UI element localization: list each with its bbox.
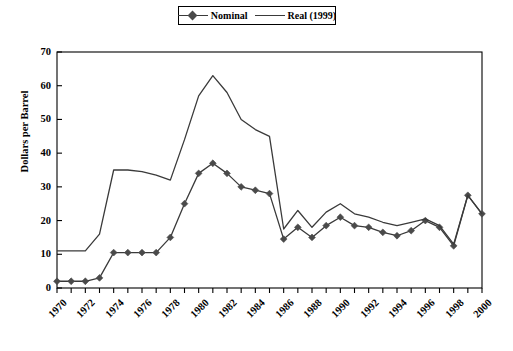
data-series xyxy=(54,76,486,285)
data-point-marker xyxy=(337,214,344,221)
data-point-marker xyxy=(139,249,146,256)
data-point-marker xyxy=(365,224,372,231)
plot-area xyxy=(0,0,513,351)
series-line-real-1999- xyxy=(57,76,482,251)
data-point-marker xyxy=(379,229,386,236)
data-point-marker xyxy=(266,190,273,197)
data-point-marker xyxy=(252,187,259,194)
oil-price-chart: Nominal Real (1999) Dollars per Barrel 0… xyxy=(0,0,513,351)
data-point-marker xyxy=(68,278,75,285)
axis-ticks xyxy=(57,52,482,293)
data-point-marker xyxy=(110,249,117,256)
data-point-marker xyxy=(124,249,131,256)
data-point-marker xyxy=(54,278,61,285)
data-point-marker xyxy=(181,200,188,207)
series-line-nominal xyxy=(57,163,482,281)
data-point-marker xyxy=(82,278,89,285)
data-point-marker xyxy=(394,232,401,239)
data-point-marker xyxy=(351,222,358,229)
data-point-marker xyxy=(96,274,103,281)
